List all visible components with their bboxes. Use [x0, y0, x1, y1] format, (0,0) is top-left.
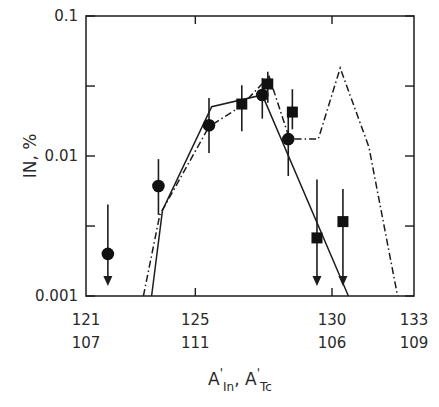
- data-point-circle: [102, 205, 115, 286]
- x-ticks: 121107125111130106133109: [72, 16, 429, 352]
- x-tick-label-secondary: 109: [400, 334, 429, 352]
- y-tick-label: 0.001: [35, 287, 78, 305]
- square-marker: [236, 99, 247, 110]
- y-tick-label: 0.1: [54, 7, 78, 25]
- plot-frame: [86, 16, 414, 296]
- circle-marker: [152, 180, 165, 193]
- data-point-circle: [152, 159, 165, 215]
- series-lines: [143, 68, 397, 296]
- circle-marker: [282, 133, 295, 146]
- upper-limit-arrow: [312, 276, 321, 286]
- circle-marker: [203, 119, 216, 132]
- calc-line-solid: [152, 95, 349, 296]
- upper-limit-arrow: [103, 276, 112, 286]
- calc-line-dashdot: [143, 68, 397, 296]
- square-marker: [262, 78, 273, 89]
- x-tick-label: 133: [400, 311, 429, 329]
- square-marker: [287, 107, 298, 118]
- upper-limit-arrow: [338, 276, 347, 286]
- x-tick-label-secondary: 107: [72, 334, 101, 352]
- x-tick-label: 130: [318, 311, 347, 329]
- data-point-square: [236, 85, 247, 131]
- square-marker: [337, 216, 348, 227]
- y-axis-label: IN, %: [20, 134, 40, 179]
- square-marker: [311, 232, 322, 243]
- y-tick-label: 0.01: [45, 147, 78, 165]
- x-tick-label-secondary: 106: [318, 334, 347, 352]
- data-point-square: [337, 189, 348, 286]
- x-tick-label: 125: [181, 311, 210, 329]
- data-point-square: [311, 179, 322, 286]
- circle-marker: [256, 89, 269, 102]
- chart: 0.10.010.001 121107125111130106133109 IN…: [0, 0, 439, 407]
- x-tick-label: 121: [72, 311, 101, 329]
- y-ticks: 0.10.010.001: [35, 7, 414, 305]
- x-tick-label-secondary: 111: [181, 334, 210, 352]
- x-axis-label: A'In, A'Tc: [208, 366, 272, 394]
- circle-marker: [102, 248, 115, 261]
